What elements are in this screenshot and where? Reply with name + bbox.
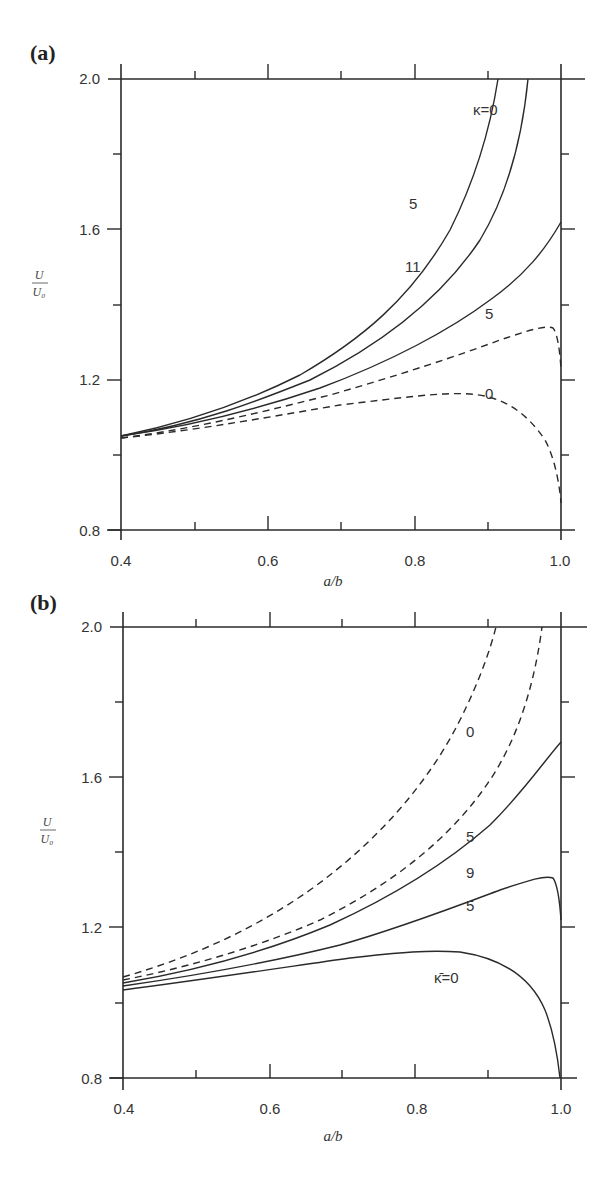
y-label-denominator: U₀: [41, 832, 54, 846]
y-tick-2.0: 2.0: [79, 70, 100, 87]
x-tick-0.6: 0.6: [258, 552, 279, 569]
x-tick-0.6: 0.6: [260, 1100, 281, 1117]
y-tick-0.8: 0.8: [81, 1070, 102, 1087]
figure: (a) 2.0 1.6 1.: [0, 0, 616, 1185]
panel-a: (a) 2.0 1.6 1.: [30, 40, 585, 589]
label-9: 9: [466, 864, 474, 881]
label-5: 5: [409, 195, 417, 212]
left-ticks: [107, 154, 121, 530]
x-tick-0.4: 0.4: [114, 1100, 135, 1117]
top-ticks: [195, 64, 488, 79]
y-tick-1.6: 1.6: [81, 769, 102, 786]
curves-a: [121, 79, 561, 503]
label-kappa-0: κ=0: [473, 101, 498, 118]
label-11: 11: [405, 258, 421, 275]
curve-kappa-5-dashed: [121, 327, 561, 438]
x-tick-0.8: 0.8: [407, 1100, 428, 1117]
panel-b: (b) 2.0 1.6 1.2 0.8 U U₀: [30, 590, 587, 1144]
x-tick-1.0: 1.0: [550, 552, 571, 569]
y-label-denominator: U₀: [33, 285, 46, 299]
label-5-dashed: 5: [485, 305, 493, 322]
y-label-numerator: U: [35, 268, 45, 282]
curve-dashed-5: [123, 627, 542, 980]
top-ticks: [196, 612, 488, 627]
y-label-numerator: U: [43, 815, 53, 829]
curve-kappa-0: [121, 79, 498, 436]
curve-solid-9: [123, 742, 561, 983]
label-0-dashed: 0: [485, 385, 493, 402]
y-tick-1.2: 1.2: [81, 919, 102, 936]
curve-kappa-5: [121, 79, 528, 436]
curves-b: [123, 627, 561, 1078]
label-5-dashed: 5: [466, 828, 474, 845]
x-tick-0.8: 0.8: [405, 552, 426, 569]
y-tick-0.8: 0.8: [79, 522, 100, 539]
left-ticks: [109, 702, 123, 1078]
panel-a-label: (a): [30, 40, 56, 65]
label-5: 5: [466, 897, 474, 914]
x-axis-label: a/b: [323, 1128, 343, 1144]
y-tick-2.0: 2.0: [81, 618, 102, 635]
bottom-ticks: [196, 1064, 488, 1078]
right-ticks: [561, 702, 575, 1003]
right-ticks: [561, 154, 575, 455]
curve-kappa-11: [121, 222, 561, 436]
label-0-dashed: 0: [466, 723, 474, 740]
y-tick-1.2: 1.2: [79, 371, 100, 388]
bottom-ticks: [195, 516, 488, 530]
x-tick-0.4: 0.4: [111, 552, 132, 569]
y-tick-1.6: 1.6: [79, 221, 100, 238]
panel-b-label: (b): [30, 590, 57, 615]
x-tick-1.0: 1.0: [551, 1100, 572, 1117]
x-axis-label: a/b: [323, 573, 343, 589]
curve-kappa-0-dashed: [121, 394, 561, 503]
label-kappa-bar-0: κ̄=0: [434, 969, 459, 986]
